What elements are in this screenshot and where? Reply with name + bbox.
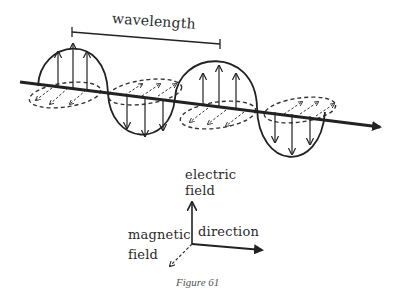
electric-field-label-line2: field [185,184,215,198]
magnetic-field-label-line1: magnetic [128,228,191,242]
magnetic-axis-arrow [170,244,192,266]
direction-label: direction [198,225,259,239]
figure-caption: Figure 61 [176,276,219,288]
wave-diagram [0,0,397,301]
magnetic-field-loops [28,75,338,133]
propagation-axis-arrow [20,82,380,127]
electric-field-arrows [58,44,310,154]
magnetic-field-label-line2: field [128,248,158,262]
electric-field-label-line1: electric [185,168,236,182]
wavelength-bracket [72,27,220,49]
direction-axis-arrow [192,244,262,250]
